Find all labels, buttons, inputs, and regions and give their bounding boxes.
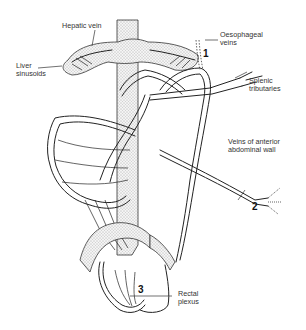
- rectal-plexus-label: Rectal plexus: [178, 290, 199, 307]
- site-number-rectal: 3: [138, 284, 144, 295]
- site-number-abdominal-wall: 2: [252, 201, 258, 212]
- splenic-tributaries-label: Splenic tributaries: [249, 77, 281, 94]
- portal-systemic-diagram: [0, 0, 306, 330]
- liver-sinusoids-label: Liver sinusoids: [16, 62, 46, 79]
- site-number-oesophageal: 1: [203, 48, 209, 59]
- oesophageal-veins-label: Oesophageal veins: [220, 31, 263, 48]
- hepatic-vein-label: Hepatic vein: [62, 22, 102, 30]
- rectum: [80, 223, 175, 313]
- anterior-abdominal-wall-label: Veins of anterior abdominal wall: [228, 138, 280, 155]
